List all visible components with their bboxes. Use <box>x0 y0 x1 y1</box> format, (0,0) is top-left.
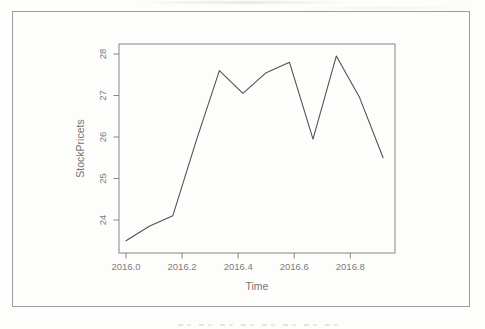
scanned-figure-page: 2016.02016.22016.42016.62016.82425262728… <box>0 0 485 329</box>
y-axis-label: StockPricets <box>74 119 86 177</box>
chart-generated-content: 2016.02016.22016.42016.62016.82425262728 <box>97 49 383 272</box>
x-tick-label: 2016.6 <box>280 261 309 272</box>
x-tick-label: 2016.2 <box>168 261 197 272</box>
x-axis-label: Time <box>246 280 269 292</box>
x-tick-label: 2016.8 <box>336 261 365 272</box>
y-tick-label: 24 <box>97 215 108 226</box>
x-tick-label: 2016.4 <box>224 261 253 272</box>
stock-price-line <box>126 56 383 241</box>
y-tick-label: 26 <box>97 132 108 143</box>
x-tick-label: 2016.0 <box>111 261 140 272</box>
y-tick-label: 25 <box>97 173 108 184</box>
y-tick-label: 27 <box>97 90 108 101</box>
line-chart: 2016.02016.22016.42016.62016.82425262728… <box>0 0 485 329</box>
y-tick-label: 28 <box>97 49 108 60</box>
